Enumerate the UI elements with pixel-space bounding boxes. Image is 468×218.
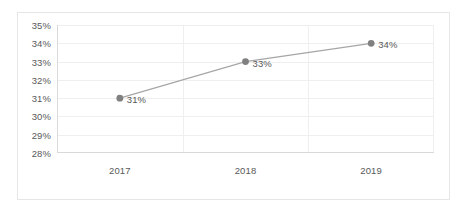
y-tick-label: 34% (32, 38, 51, 49)
chart-container: 35% 34% 33% 32% 31% 30% 29% 28% 31% 33% … (17, 12, 450, 200)
data-point-marker (368, 40, 375, 47)
y-tick-label: 29% (32, 129, 51, 140)
data-point-label: 31% (127, 94, 146, 105)
y-tick-label: 30% (32, 111, 51, 122)
plot-area: 35% 34% 33% 32% 31% 30% 29% 28% 31% 33% … (57, 25, 434, 153)
x-tick-label-2019: 2019 (360, 165, 382, 176)
y-tick-label: 32% (32, 74, 51, 85)
y-tick-label: 35% (32, 20, 51, 31)
y-tick-label: 33% (32, 56, 51, 67)
data-point-label: 33% (253, 57, 272, 68)
x-tick-label-2017: 2017 (109, 165, 131, 176)
x-tick-label-2018: 2018 (235, 165, 257, 176)
data-point-marker (242, 58, 249, 65)
data-point-label: 34% (378, 39, 397, 50)
y-tick-label: 28% (32, 148, 51, 159)
y-tick-label: 31% (32, 93, 51, 104)
data-point-marker (116, 95, 123, 102)
